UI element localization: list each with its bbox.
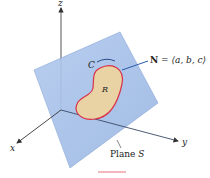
normal-vector-label: N = ⟨a, b, c⟩ bbox=[150, 56, 206, 65]
y-axis-label: y bbox=[182, 138, 187, 147]
normal-vector: ⟨a, b, c⟩ bbox=[172, 55, 207, 65]
plane-label: Plane S bbox=[110, 150, 144, 159]
plane-label-text: Plane bbox=[110, 149, 138, 159]
x-axis bbox=[17, 110, 61, 143]
normal-symbol: N bbox=[150, 55, 158, 65]
plane-symbol: S bbox=[138, 149, 144, 159]
figure-caption-faint bbox=[98, 171, 126, 173]
curve-c-label: C bbox=[88, 61, 95, 70]
normal-equals: = bbox=[158, 55, 171, 65]
plane-leader bbox=[117, 140, 121, 148]
z-axis-label: z bbox=[58, 0, 63, 8]
x-axis-label: x bbox=[10, 144, 15, 153]
region-r-label: R bbox=[102, 86, 108, 94]
